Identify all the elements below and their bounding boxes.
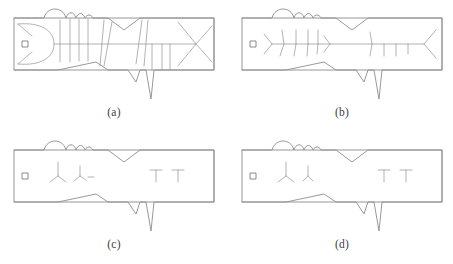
panel-b-branch-2 bbox=[294, 30, 296, 56]
panel-d-square-marker bbox=[250, 173, 256, 179]
panel-c-fragment-4 bbox=[150, 170, 162, 182]
panel-b-fish-contour bbox=[242, 9, 442, 99]
panel-d-drawing bbox=[228, 132, 453, 236]
panel-c-square-marker bbox=[22, 173, 28, 179]
panel-b-branch-1 bbox=[280, 30, 284, 56]
panel-a-tail-fin bbox=[196, 26, 212, 62]
panel-c-bounding-box bbox=[14, 150, 214, 202]
panel-a-fish-contour bbox=[14, 9, 214, 99]
figure-panel-d: (d) bbox=[228, 132, 453, 264]
panel-b-drawing bbox=[228, 0, 453, 104]
panel-a-rib-8 bbox=[144, 20, 148, 66]
panel-a-rib-7 bbox=[136, 20, 142, 64]
panel-b-branch-3 bbox=[307, 30, 308, 56]
panel-a-head-outline bbox=[18, 24, 54, 65]
panel-d-caption: (d) bbox=[335, 239, 349, 251]
figure-panel-c: (c) bbox=[0, 132, 228, 264]
panel-d-fragment-1 bbox=[278, 162, 294, 182]
figure-panel-a: (a) bbox=[0, 0, 228, 132]
panel-b-tail-fork bbox=[424, 30, 436, 58]
panel-a-drawing bbox=[0, 0, 228, 104]
panel-d-fragment-2 bbox=[303, 166, 313, 181]
panel-c-drawing bbox=[0, 132, 228, 236]
panel-b-branch-4 bbox=[317, 30, 318, 54]
panel-c-fish-contour bbox=[14, 141, 214, 231]
panel-d-fragment-3 bbox=[378, 170, 390, 182]
panel-a-rib-5 bbox=[100, 20, 104, 66]
panel-a-square-marker bbox=[22, 41, 28, 47]
panel-c-fragment-2 bbox=[74, 166, 86, 181]
panel-c-fragment-1 bbox=[50, 162, 66, 182]
panel-d-bounding-box bbox=[242, 150, 442, 202]
panel-c-caption: (c) bbox=[107, 239, 120, 251]
panel-a-head-whisker-bottom bbox=[18, 52, 32, 64]
panel-b-branch-head bbox=[264, 34, 272, 54]
panel-d-fish-contour bbox=[242, 141, 442, 231]
panel-a-caption: (a) bbox=[107, 107, 120, 119]
figure-panel-grid: (a) (b) bbox=[0, 0, 453, 264]
panel-d-fragment-4 bbox=[400, 170, 412, 182]
panel-b-caption: (b) bbox=[335, 107, 349, 119]
panel-c-fragment-5 bbox=[172, 170, 184, 182]
panel-a-head-whisker-top bbox=[18, 24, 32, 36]
figure-panel-b: (b) bbox=[228, 0, 453, 132]
panel-b-square-marker bbox=[250, 41, 256, 47]
